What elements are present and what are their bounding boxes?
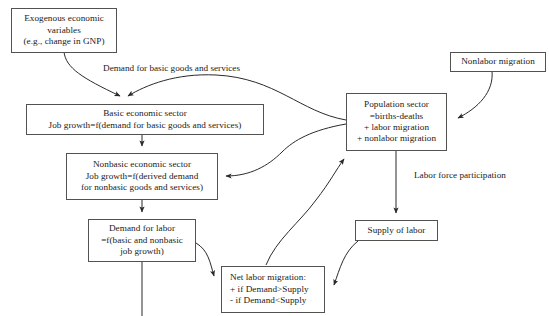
node-line: =births-deaths — [370, 111, 423, 122]
node-line: + nonlabor migration — [357, 133, 436, 144]
node-line: Nonlabor migration — [461, 56, 535, 67]
node-line: Basic economic sector — [103, 108, 187, 119]
flow-diagram: Exogenous economic variables (e.g., chan… — [0, 0, 549, 316]
edge-supply-to-net-migration — [334, 241, 358, 285]
node-line: =f(basic and nonbasic — [101, 235, 183, 246]
node-line: + labor migration — [364, 122, 429, 133]
node-line: + if Demand>Supply — [230, 284, 309, 295]
node-population-sector[interactable]: Population sector =births-deaths + labor… — [346, 93, 447, 151]
node-net-labor-migration[interactable]: Net labor migration: + if Demand>Supply … — [221, 266, 325, 313]
edge-exogenous-to-basic — [64, 52, 120, 96]
edge-demand-labor-to-net-migration — [196, 243, 214, 276]
edge-label-demand-for-basic-goods: Demand for basic goods and services — [103, 63, 240, 74]
edge-net-migration-to-population — [266, 159, 344, 265]
node-line: Nonbasic economic sector — [93, 159, 191, 170]
node-line: variables — [47, 25, 81, 36]
node-line: Population sector — [364, 99, 429, 110]
node-line: for nonbasic goods and services) — [81, 182, 203, 193]
node-exogenous-economic-variables[interactable]: Exogenous economic variables (e.g., chan… — [11, 8, 117, 53]
node-line: (e.g., change in GNP) — [23, 36, 104, 47]
node-line: Exogenous economic — [24, 13, 104, 24]
node-supply-of-labor[interactable]: Supply of labor — [355, 220, 438, 241]
edge-nonlabor-to-population — [458, 71, 492, 118]
node-line: job growth) — [120, 246, 164, 257]
node-line: Net labor migration: — [230, 272, 306, 283]
node-line: Supply of labor — [368, 225, 426, 236]
node-basic-economic-sector[interactable]: Basic economic sector Job growth=f(deman… — [26, 104, 264, 135]
node-demand-for-labor[interactable]: Demand for labor =f(basic and nonbasic j… — [88, 219, 196, 262]
node-line: - if Demand<Supply — [230, 295, 307, 306]
node-line: Job growth=f(derived demand — [86, 171, 199, 182]
edge-label-labor-force-participation: Labor force participation — [414, 170, 506, 181]
node-nonlabor-migration[interactable]: Nonlabor migration — [450, 52, 546, 72]
node-line: Demand for labor — [109, 223, 175, 234]
node-line: Job growth=f(demand for basic goods and … — [49, 120, 242, 131]
node-nonbasic-economic-sector[interactable]: Nonbasic economic sector Job growth=f(de… — [66, 153, 218, 200]
